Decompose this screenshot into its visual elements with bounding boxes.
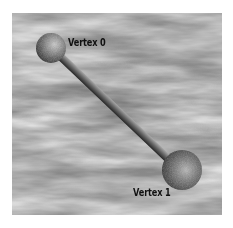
scene-canvas: [12, 13, 222, 215]
graph-edge-figure: Vertex 0 Vertex 1: [12, 13, 222, 215]
vertex-0-sphere: [36, 33, 66, 63]
vertex-0-label: Vertex 0: [68, 37, 106, 48]
vertex-1-sphere: [162, 150, 202, 190]
vertex-1-label: Vertex 1: [133, 187, 171, 198]
